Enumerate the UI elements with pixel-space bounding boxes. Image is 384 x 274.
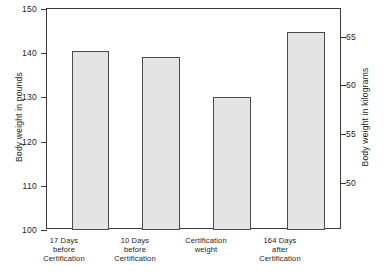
y-ticklabel-left: 130: [7, 92, 37, 102]
y-ticklabel-left: 120: [7, 137, 37, 147]
x-category-line-1: 10 Days: [99, 236, 171, 245]
x-category-line-3: Certification: [99, 254, 171, 263]
x-category-line-1: 17 Days: [28, 236, 100, 245]
x-category-label-1: 10 Days before Certification: [99, 236, 171, 264]
x-category-line-3: Certification: [28, 254, 100, 263]
y-tick-left: [41, 9, 47, 10]
bar-2: [213, 97, 251, 230]
x-category-line-2: after: [244, 245, 316, 254]
bar-chart: Body weight in pounds Body weight in kil…: [0, 0, 384, 274]
y-ticklabel-left: 150: [7, 4, 37, 14]
y-ticklabel-right: 65: [346, 32, 376, 42]
y-ticklabel-left: 100: [7, 225, 37, 235]
y-axis-label-left: Body weight in pounds: [14, 52, 24, 182]
x-category-label-0: 17 Days before Certification: [28, 236, 100, 264]
y-ticklabel-right: 50: [346, 178, 376, 188]
y-tick-left: [41, 142, 47, 143]
y-ticklabel-left: 110: [7, 181, 37, 191]
y-axis-label-right: Body weight in kilograms: [360, 52, 370, 182]
x-category-line-1: Certification: [170, 236, 242, 245]
y-ticklabel-left: 140: [7, 48, 37, 58]
y-ticklabel-right: 55: [346, 129, 376, 139]
y-tick-left: [41, 186, 47, 187]
x-category-line-1: 164 Days: [244, 236, 316, 245]
x-category-line-2: weight: [170, 245, 242, 254]
x-category-line-2: before: [28, 245, 100, 254]
y-tick-left: [41, 53, 47, 54]
y-tick-left: [41, 97, 47, 98]
x-category-line-2: before: [99, 245, 171, 254]
bar-3: [287, 32, 325, 230]
x-category-label-3: 164 Days after Certification: [244, 236, 316, 264]
x-category-label-2: Certification weight: [170, 236, 242, 254]
bar-0: [72, 51, 109, 230]
plot-area: 150 140 130 120 110 100 65 60 55 50: [46, 8, 341, 229]
x-category-line-3: Certification: [244, 254, 316, 263]
y-tick-left: [41, 230, 47, 231]
bar-1: [142, 57, 180, 230]
y-ticklabel-right: 60: [346, 80, 376, 90]
